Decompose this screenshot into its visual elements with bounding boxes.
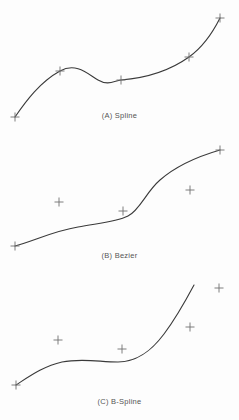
control-point-marker	[11, 242, 20, 251]
control-point-marker	[55, 198, 64, 207]
curve	[15, 150, 220, 246]
control-point-marker	[12, 381, 21, 390]
control-point-marker	[54, 336, 63, 345]
control-point-marker	[117, 76, 126, 85]
control-point-marker	[119, 207, 128, 216]
curve	[16, 285, 194, 385]
control-point-marker	[185, 53, 194, 62]
caption-bspline: (C) B-Spline	[0, 397, 239, 406]
caption-spline: (A) Spline	[0, 111, 239, 120]
caption-bezier: (B) Bezier	[0, 251, 239, 260]
curve-comparison-figure: (A) Spline (B) Bezier (C) B-Spline	[0, 0, 239, 420]
curve	[15, 18, 220, 117]
control-point-marker	[56, 67, 65, 76]
control-point-marker	[186, 186, 195, 195]
control-point-marker	[186, 323, 195, 332]
control-point-marker	[215, 284, 224, 293]
control-point-marker	[216, 14, 225, 23]
control-point-marker	[216, 146, 225, 155]
control-point-marker	[118, 345, 127, 354]
